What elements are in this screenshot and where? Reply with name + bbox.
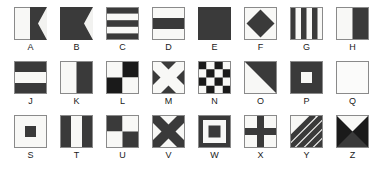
flag-label-v: V: [165, 150, 171, 161]
flag-label-e: E: [211, 42, 217, 53]
flag-s-center-square-dark-icon: [14, 115, 47, 148]
flag-cell-k: K: [60, 61, 93, 107]
flag-label-l: L: [120, 96, 125, 107]
flag-cell-w: W: [198, 115, 231, 161]
flag-row-2: J K L: [0, 53, 377, 107]
flag-z-four-triangles-icon: [336, 115, 369, 148]
flag-n-checkerboard-4x4-icon: [198, 61, 231, 94]
flag-label-s: S: [27, 150, 33, 161]
flag-cell-j: J: [14, 61, 47, 107]
flag-v-saltire-dark-icon: [152, 115, 185, 148]
flag-label-d: D: [165, 42, 172, 53]
flag-cell-s: S: [14, 115, 47, 161]
flag-label-a: A: [27, 42, 33, 53]
flag-b-swallowtail-solid-icon: [60, 7, 93, 40]
flag-j-horizontal-bands-3-inverse-icon: [14, 61, 47, 94]
signal-flag-chart: A B C: [0, 0, 377, 177]
flag-cell-m: M: [152, 61, 185, 107]
flag-cell-n: N: [198, 61, 231, 107]
flag-cell-f: F: [244, 7, 277, 53]
flag-a-swallowtail-vertical-half-icon: [14, 7, 47, 40]
flag-w-concentric-squares-icon: [198, 115, 231, 148]
flag-label-q: Q: [349, 96, 356, 107]
flag-k-vertical-half-icon: [60, 61, 93, 94]
flag-label-n: N: [211, 96, 218, 107]
flag-cell-q: Q: [336, 61, 369, 107]
flag-label-w: W: [210, 150, 219, 161]
flag-label-k: K: [73, 96, 79, 107]
flag-label-z: Z: [350, 150, 356, 161]
flag-cell-a: A: [14, 7, 47, 53]
flag-label-j: J: [28, 96, 33, 107]
flag-u-quartered-inverse-icon: [106, 115, 139, 148]
flag-g-vertical-stripes-6-icon: [290, 7, 323, 40]
flag-label-g: G: [303, 42, 310, 53]
flag-cell-g: G: [290, 7, 323, 53]
flag-row-3: S T U: [0, 107, 377, 161]
flag-label-x: X: [257, 150, 263, 161]
flag-cell-u: U: [106, 115, 139, 161]
flag-label-o: O: [257, 96, 264, 107]
flag-label-b: B: [73, 42, 79, 53]
flag-cell-v: V: [152, 115, 185, 161]
flag-label-t: T: [74, 150, 80, 161]
flag-o-diagonal-split-icon: [244, 61, 277, 94]
flag-row-1: A B C: [0, 0, 377, 53]
flag-t-vertical-bands-3-icon: [60, 115, 93, 148]
flag-label-h: H: [349, 42, 356, 53]
flag-cell-e: E: [198, 7, 231, 53]
flag-cell-p: P: [290, 61, 323, 107]
flag-h-vertical-half-icon: [336, 7, 369, 40]
flag-cell-h: H: [336, 7, 369, 53]
flag-label-m: M: [165, 96, 173, 107]
flag-m-saltire-light-icon: [152, 61, 185, 94]
flag-e-solid-dark-icon: [198, 7, 231, 40]
flag-label-f: F: [258, 42, 264, 53]
flag-cell-c: C: [106, 7, 139, 53]
flag-cell-b: B: [60, 7, 93, 53]
flag-d-horizontal-bands-3-icon: [152, 7, 185, 40]
flag-q-solid-light-icon: [336, 61, 369, 94]
flag-label-p: P: [303, 96, 309, 107]
flag-cell-y: Y: [290, 115, 323, 161]
flag-label-y: Y: [303, 150, 309, 161]
flag-cell-l: L: [106, 61, 139, 107]
flag-y-diagonal-stripes-icon: [290, 115, 323, 148]
flag-cell-o: O: [244, 61, 277, 107]
flag-cell-x: X: [244, 115, 277, 161]
flag-cell-t: T: [60, 115, 93, 161]
flag-cell-d: D: [152, 7, 185, 53]
flag-c-horizontal-stripes-5-icon: [106, 7, 139, 40]
flag-x-cross-dark-icon: [244, 115, 277, 148]
flag-label-c: C: [119, 42, 126, 53]
flag-label-u: U: [119, 150, 126, 161]
flag-p-center-square-light-icon: [290, 61, 323, 94]
flag-cell-z: Z: [336, 115, 369, 161]
flag-f-diamond-icon: [244, 7, 277, 40]
flag-l-quartered-icon: [106, 61, 139, 94]
